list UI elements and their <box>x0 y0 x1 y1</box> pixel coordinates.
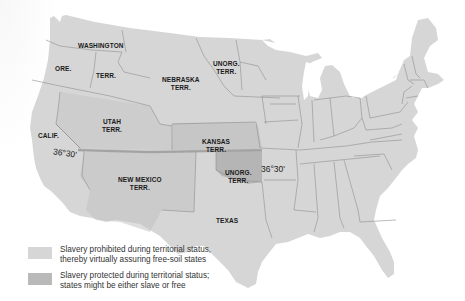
label-washington: WASHINGTON <box>78 42 124 50</box>
label-oregon: ORE. <box>55 65 71 73</box>
label-kansas-terr: KANSAS TERR. <box>202 138 230 154</box>
legend: Slavery prohibited during territorial st… <box>28 245 211 297</box>
legend-text-slavery-protected: Slavery protected during territorial sta… <box>60 271 209 291</box>
label-unorg-terr-north: UNORG. TERR. <box>213 60 240 76</box>
label-utah-terr: UTAH TERR. <box>102 118 122 134</box>
legend-text-free-soil: Slavery prohibited during territorial st… <box>60 245 211 265</box>
legend-item-slavery-protected: Slavery protected during territorial sta… <box>28 271 211 291</box>
legend-item-free-soil: Slavery prohibited during territorial st… <box>28 245 211 265</box>
label-texas: TEXAS <box>216 217 238 225</box>
legend-swatch-free-soil <box>28 247 52 259</box>
label-new-mexico-terr: NEW MEXICO TERR. <box>118 176 162 192</box>
legend-swatch-slavery-protected <box>28 273 52 285</box>
latitude-label-east: 36°30' <box>261 164 285 174</box>
label-nebraska-terr: NEBRASKA TERR. <box>162 76 200 92</box>
label-washington-terr: TERR. <box>96 72 116 80</box>
label-unorg-terr-south: UNORG. TERR. <box>225 169 252 185</box>
label-california: CALIF. <box>38 132 59 140</box>
